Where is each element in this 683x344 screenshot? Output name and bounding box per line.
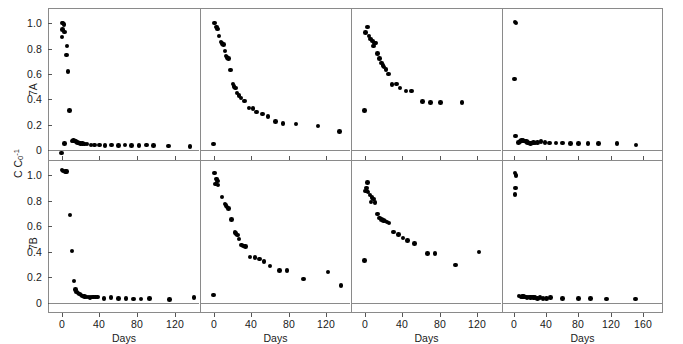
data-point (548, 295, 553, 300)
data-point (514, 173, 519, 178)
data-point (560, 296, 565, 301)
data-point (604, 297, 609, 302)
data-point (513, 192, 518, 197)
data-point (633, 297, 638, 302)
data-point (588, 296, 593, 301)
data-point (576, 296, 581, 301)
data-point (513, 186, 518, 191)
